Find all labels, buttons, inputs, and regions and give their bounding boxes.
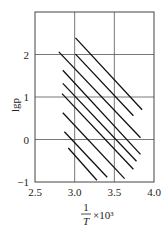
series-line-8: [64, 132, 107, 178]
x-tick-label: 4.0: [147, 186, 161, 198]
y-tick-label: 2: [24, 49, 30, 61]
y-tick-label: 0: [24, 134, 30, 146]
y-tick-label: −1: [17, 176, 29, 188]
series-lines: [59, 38, 142, 180]
x-label-suffix: ×10³: [93, 209, 114, 221]
x-label-denominator: T: [83, 215, 90, 227]
chart: 2.53.03.54.0 −1012 lgp 1 T ×10³: [0, 0, 167, 236]
x-label-numerator: 1: [83, 201, 89, 213]
y-tick-label: 1: [24, 91, 30, 103]
y-axis-ticks: −1012: [17, 49, 29, 189]
series-line-7: [63, 113, 125, 179]
x-tick-label: 2.5: [28, 186, 42, 198]
x-axis-label: 1 T ×10³: [81, 201, 114, 227]
x-tick-label: 3.0: [68, 186, 82, 198]
y-axis-label: lgp: [9, 97, 21, 112]
x-axis-ticks: 2.53.03.54.0: [28, 186, 161, 198]
series-line-9: [68, 148, 97, 180]
x-tick-label: 3.5: [107, 186, 121, 198]
grid-lines: [35, 12, 154, 182]
series-line-1: [76, 38, 143, 110]
